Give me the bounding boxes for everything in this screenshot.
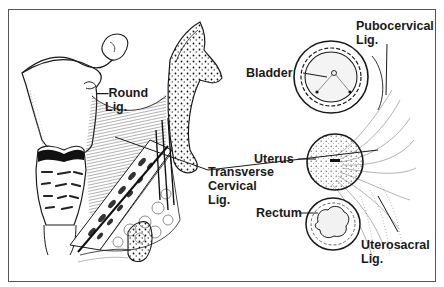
sagittal-view bbox=[22, 22, 222, 262]
label-uterus: Uterus bbox=[254, 152, 294, 166]
label-pcl-line2: Lig. bbox=[356, 33, 434, 47]
label-tcl-line1: Transverse bbox=[208, 165, 274, 179]
bladder bbox=[294, 41, 383, 113]
rectum bbox=[306, 198, 360, 250]
uterus bbox=[307, 134, 363, 190]
label-round-lig-line2: Lig. bbox=[96, 100, 148, 114]
label-usl-line1: Uterosacral bbox=[361, 238, 430, 252]
label-transverse-cervical-lig: Transverse Cervical Lig. bbox=[208, 165, 274, 207]
pelvic-bone bbox=[168, 22, 222, 173]
ischial-bone bbox=[128, 222, 152, 262]
label-bladder: Bladder bbox=[246, 66, 293, 80]
cross-section-view bbox=[208, 41, 416, 256]
label-tcl-line2: Cervical bbox=[208, 179, 274, 193]
label-pcl-line1: Pubocervical bbox=[356, 19, 434, 33]
label-rectum: Rectum bbox=[256, 206, 302, 220]
label-usl-line2: Lig. bbox=[361, 252, 430, 266]
label-pubocervical-lig: Pubocervical Lig. bbox=[356, 19, 434, 47]
label-round-lig-line1: —Round bbox=[96, 86, 148, 100]
label-uterosacral-lig: Uterosacral Lig. bbox=[361, 238, 430, 266]
label-tcl-line3: Lig. bbox=[208, 193, 274, 207]
label-round-lig: —Round Lig. bbox=[96, 86, 148, 114]
